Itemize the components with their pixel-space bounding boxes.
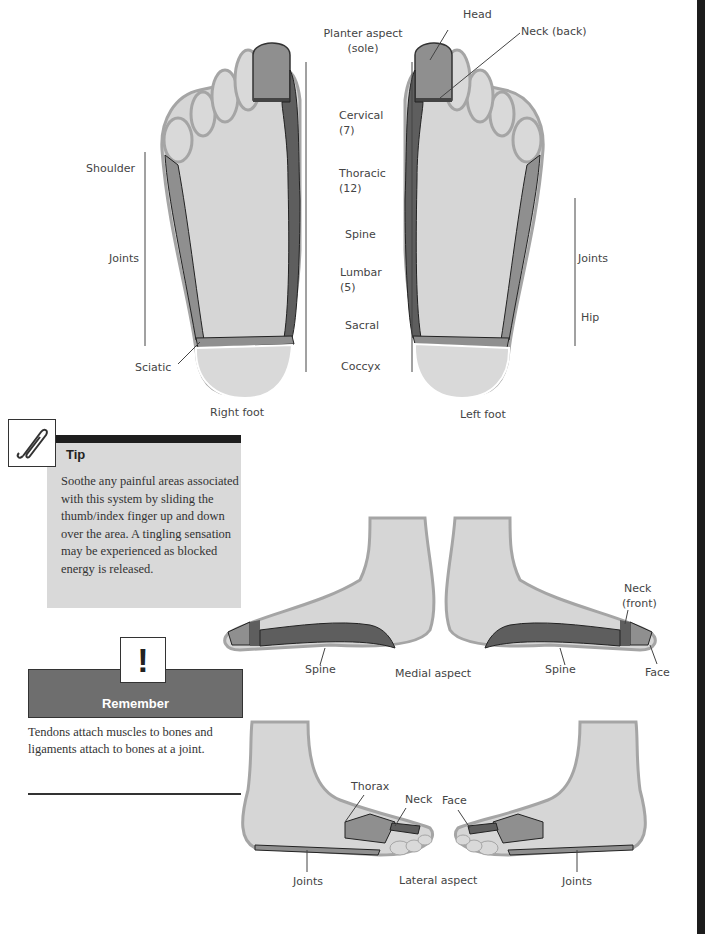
caption-right-foot: Right foot (210, 405, 264, 420)
label-neck-front-1: Neck (624, 581, 651, 596)
label-hip: Hip (581, 310, 599, 325)
paperclip-icon (8, 419, 56, 467)
lateral-right-foot (455, 722, 645, 855)
label-thoracic: Thoracic (339, 166, 386, 181)
label-cervical: Cervical (339, 108, 383, 123)
label-spine-medial-left: Spine (305, 662, 336, 677)
label-thorax: Thorax (351, 779, 389, 794)
caption-lateral-aspect: Lateral aspect (399, 873, 477, 888)
label-spine: Spine (345, 227, 376, 242)
right-foot-diagram (162, 43, 300, 398)
label-coccyx: Coccyx (341, 359, 381, 374)
label-face-medial: Face (645, 665, 670, 680)
label-cervical-count: (7) (339, 123, 355, 138)
label-sacral: Sacral (345, 318, 379, 333)
label-planter-aspect-sub: (sole) (318, 41, 408, 56)
medial-left-foot (225, 518, 434, 650)
label-neck-lateral: Neck (405, 792, 432, 807)
label-joints-lateral-right: Joints (562, 874, 592, 889)
label-thoracic-count: (12) (339, 181, 362, 196)
tip-text: Soothe any painful areas associated with… (61, 473, 241, 578)
lateral-left-foot (243, 722, 433, 855)
divider (28, 793, 241, 795)
tip-title: Tip (66, 447, 85, 462)
label-spine-medial-right: Spine (545, 662, 576, 677)
exclamation-icon: ! (120, 637, 166, 683)
label-lumbar: Lumbar (340, 265, 382, 280)
label-joints-left-foot: Joints (578, 251, 608, 266)
label-sciatic: Sciatic (135, 360, 171, 375)
left-foot-diagram (405, 43, 543, 398)
label-joints-lateral-left: Joints (293, 874, 323, 889)
label-face-lateral: Face (442, 793, 467, 808)
remember-title: Remember (28, 696, 243, 711)
label-neck-front-2: (front) (622, 596, 657, 611)
label-shoulder: Shoulder (86, 161, 135, 176)
label-joints-right-foot: Joints (109, 251, 139, 266)
tip-header-bar (47, 435, 241, 443)
label-neck-back: Neck (back) (521, 24, 587, 39)
label-head: Head (463, 7, 492, 22)
caption-medial-aspect: Medial aspect (395, 666, 471, 681)
label-lumbar-count: (5) (340, 280, 356, 295)
remember-text: Tendons attach muscles to bones and liga… (28, 724, 248, 758)
label-planter-aspect: Planter aspect (318, 26, 408, 41)
caption-left-foot: Left foot (460, 407, 506, 422)
